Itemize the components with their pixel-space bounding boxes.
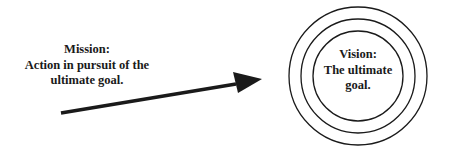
arrow-head-icon (233, 72, 262, 93)
vision-line-2: The ultimate (308, 63, 408, 79)
vision-label: Vision: The ultimate goal. (308, 47, 408, 94)
mission-label: Mission: Action in pursuit of the ultima… (12, 42, 162, 89)
mission-line-2: Action in pursuit of the (12, 58, 162, 74)
vision-title: Vision: (308, 47, 408, 63)
mission-title: Mission: (12, 42, 162, 58)
vision-line-3: goal. (308, 78, 408, 94)
mission-line-3: ultimate goal. (12, 73, 162, 89)
